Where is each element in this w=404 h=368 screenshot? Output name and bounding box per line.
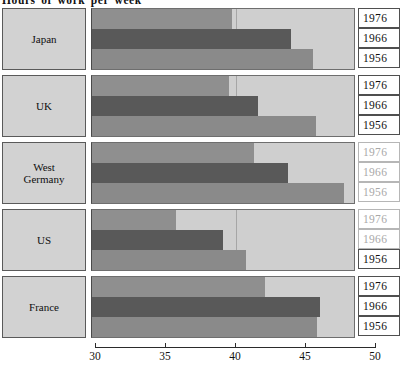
year-label-west-germany-1956: 1956 <box>358 182 400 202</box>
country-label-france: France <box>2 276 86 338</box>
year-label-japan-1966: 1966 <box>358 28 400 48</box>
country-label-line: West <box>24 161 65 174</box>
x-axis-tick-label-30: 30 <box>89 350 101 362</box>
x-axis-tick-35 <box>165 343 166 348</box>
country-label-line: France <box>29 301 59 314</box>
country-label-uk: UK <box>2 75 86 137</box>
x-axis-tick-label-35: 35 <box>159 350 171 362</box>
year-label-france-1966: 1966 <box>358 296 400 316</box>
bar-group-us <box>91 209 355 271</box>
bar-group-japan <box>91 8 355 70</box>
country-label-west-germany: WestGermany <box>2 142 86 204</box>
year-label-us-1976: 1976 <box>358 209 400 229</box>
bar-west-germany-1966 <box>92 163 288 183</box>
year-label-us-1956: 1956 <box>358 249 400 269</box>
hours-of-work-chart: Hours of work per week Japan197619661956… <box>0 0 404 368</box>
country-label-text: US <box>37 234 51 247</box>
bar-japan-1976 <box>92 9 232 29</box>
bar-uk-1966 <box>92 96 258 116</box>
year-label-west-germany-1966: 1966 <box>358 162 400 182</box>
country-label-text: WestGermany <box>24 161 65 186</box>
x-axis-tick-label-45: 45 <box>299 350 311 362</box>
x-axis-tick-label-40: 40 <box>229 350 241 362</box>
bar-group-france <box>91 276 355 338</box>
x-axis-tick-label-50: 50 <box>369 350 381 362</box>
year-label-uk-1976: 1976 <box>358 75 400 95</box>
bar-west-germany-1976 <box>92 143 254 163</box>
x-axis-tick-45 <box>305 343 306 348</box>
country-label-us: US <box>2 209 86 271</box>
country-label-japan: Japan <box>2 8 86 70</box>
bar-us-1976 <box>92 210 176 230</box>
country-label-line: US <box>37 234 51 247</box>
bar-france-1966 <box>92 297 320 317</box>
bar-west-germany-1956 <box>92 183 344 203</box>
year-label-france-1956: 1956 <box>358 316 400 336</box>
bar-group-west-germany <box>91 142 355 204</box>
x-axis-tick-30 <box>95 343 96 348</box>
country-label-line: Japan <box>31 33 56 46</box>
bar-group-uk <box>91 75 355 137</box>
year-label-us-1966: 1966 <box>358 229 400 249</box>
year-label-japan-1976: 1976 <box>358 8 400 28</box>
year-label-france-1976: 1976 <box>358 276 400 296</box>
year-label-uk-1956: 1956 <box>358 115 400 135</box>
year-label-japan-1956: 1956 <box>358 48 400 68</box>
bar-france-1976 <box>92 277 265 297</box>
country-label-line: UK <box>36 100 52 113</box>
country-label-text: France <box>29 301 59 314</box>
year-label-uk-1966: 1966 <box>358 95 400 115</box>
bar-france-1956 <box>92 317 317 337</box>
country-label-text: UK <box>36 100 52 113</box>
bar-us-1956 <box>92 250 246 270</box>
x-axis-tick-40 <box>235 343 236 348</box>
year-label-west-germany-1976: 1976 <box>358 142 400 162</box>
country-label-line: Germany <box>24 173 65 186</box>
bar-japan-1956 <box>92 49 313 69</box>
bar-us-1966 <box>92 230 223 250</box>
x-axis-tick-50 <box>375 343 376 348</box>
country-label-text: Japan <box>31 33 56 46</box>
bar-uk-1976 <box>92 76 229 96</box>
bar-japan-1966 <box>92 29 291 49</box>
chart-title: Hours of work per week <box>2 0 142 6</box>
bar-uk-1956 <box>92 116 316 136</box>
